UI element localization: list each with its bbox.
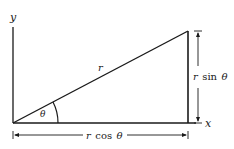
x-axis-label: x <box>205 117 212 130</box>
angle-label: θ <box>40 109 46 119</box>
y-axis-label: y <box>9 11 17 24</box>
opposite-label: r sin θ <box>193 71 228 82</box>
arrow-up-icon <box>196 32 200 37</box>
angle-arc <box>53 102 58 123</box>
arrow-right-icon <box>182 133 187 137</box>
adjacent-label: r cos θ <box>86 130 123 141</box>
arrow-left-icon <box>14 133 19 137</box>
arrow-down-icon <box>196 117 200 122</box>
polar-triangle-diagram: y x r θ r sin θ r cos θ <box>0 0 234 149</box>
hypotenuse-label: r <box>98 62 104 73</box>
